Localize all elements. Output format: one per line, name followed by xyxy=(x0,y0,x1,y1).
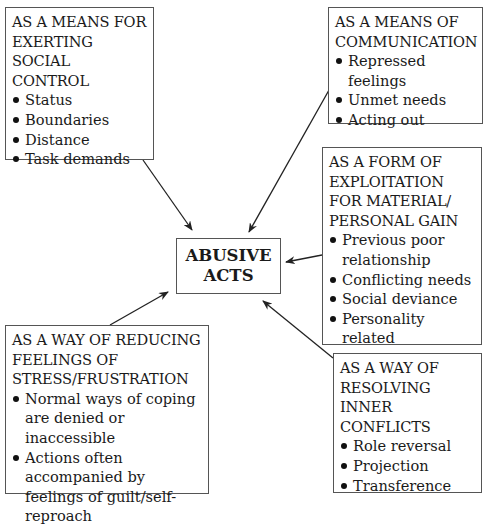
box-communication: AS A MEANS OF COMMUNICATION Repressed fe… xyxy=(328,7,483,124)
list-item: Social deviance xyxy=(329,289,475,309)
box-title: AS A FORM OF EXPLOITATION FOR MATERIAL/ … xyxy=(329,152,475,230)
list-item: Distance xyxy=(12,130,147,150)
list-item: Acting out xyxy=(335,110,476,130)
center-label-line2: ACTS xyxy=(203,266,253,286)
arrow-exploitation xyxy=(286,255,322,262)
list-item: Task demands xyxy=(12,149,147,169)
box-title: AS A MEANS OF COMMUNICATION xyxy=(335,12,476,51)
center-box-abusive-acts: ABUSIVE ACTS xyxy=(176,238,281,294)
list-item: Normal ways of coping are denied or inac… xyxy=(12,389,202,448)
list-item: Boundaries xyxy=(12,110,147,130)
list-item: Conflicting needs xyxy=(329,270,475,290)
list-item: Previous poor relationship xyxy=(329,230,475,269)
arrow-stress xyxy=(110,292,168,325)
list-item: Unmet needs xyxy=(335,90,476,110)
list-item: Repressed feelings xyxy=(335,51,476,90)
list-item: Projection xyxy=(340,456,475,476)
box-exploitation: AS A FORM OF EXPLOITATION FOR MATERIAL/ … xyxy=(322,147,482,345)
list-item: Transference xyxy=(340,476,475,496)
box-stress: AS A WAY OF REDUCING FEELINGS OF STRESS/… xyxy=(5,325,209,494)
box-title: AS A WAY OF RESOLVING INNER CONFLICTS xyxy=(340,358,475,436)
arrow-communication xyxy=(249,83,333,232)
box-social-control: AS A MEANS FOR EXERTING SOCIAL CONTROL S… xyxy=(5,7,154,160)
center-label-line1: ABUSIVE xyxy=(185,246,271,266)
list-item: Role reversal xyxy=(340,436,475,456)
box-title: AS A WAY OF REDUCING FEELINGS OF STRESS/… xyxy=(12,330,202,389)
box-inner-conflicts: AS A WAY OF RESOLVING INNER CONFLICTS Ro… xyxy=(333,353,482,493)
box-title: AS A MEANS FOR EXERTING SOCIAL CONTROL xyxy=(12,12,147,90)
list-item: Personality related xyxy=(329,309,475,348)
list-item: Actions often accompanied by feelings of… xyxy=(12,448,202,526)
arrow-social-control xyxy=(143,160,192,230)
list-item: Status xyxy=(12,90,147,110)
